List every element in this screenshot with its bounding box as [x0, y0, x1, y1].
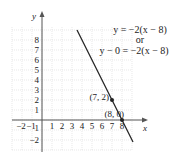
x-tick-labels: −2−112345678 [16, 121, 125, 131]
x-tick-label: 3 [70, 121, 75, 131]
x-tick-label: −2 [16, 121, 26, 131]
equation-line-2: y − 0 = −2(x − 8) [99, 45, 168, 57]
y-axis-label: y [31, 11, 36, 21]
x-tick-label: 2 [60, 121, 65, 131]
x-tick-label: 8 [120, 121, 125, 131]
x-axis-label: x [142, 123, 147, 133]
data-point [110, 98, 114, 102]
x-tick-label: 1 [50, 121, 55, 131]
graph: x y −2−112345678 −2123456781 (7, 2)(8, 0… [0, 0, 175, 160]
y-tick-label: 4 [35, 75, 40, 85]
x-tick-label: 4 [80, 121, 85, 131]
point-label: (7, 2) [90, 92, 110, 102]
data-points: (7, 2)(8, 0) [90, 92, 125, 122]
equation-or: or [136, 34, 145, 45]
x-tick-label: 7 [110, 121, 115, 131]
point-label: (8, 0) [105, 109, 125, 119]
y-tick-label: 8 [35, 35, 40, 45]
y-tick-label: 2 [35, 95, 40, 105]
y-tick-label: 5 [35, 65, 40, 75]
y-tick-label: 3 [35, 85, 40, 95]
y-axis-arrow-icon [40, 11, 45, 17]
y-tick-label: 1 [35, 105, 40, 115]
x-tick-label: 5 [90, 121, 95, 131]
y-tick-label: 1 [35, 123, 40, 133]
y-tick-label: −2 [29, 135, 39, 145]
x-axis-arrow-icon [142, 118, 148, 123]
x-tick-label: 6 [100, 121, 105, 131]
y-tick-label: 6 [35, 55, 40, 65]
y-tick-label: 7 [35, 45, 40, 55]
